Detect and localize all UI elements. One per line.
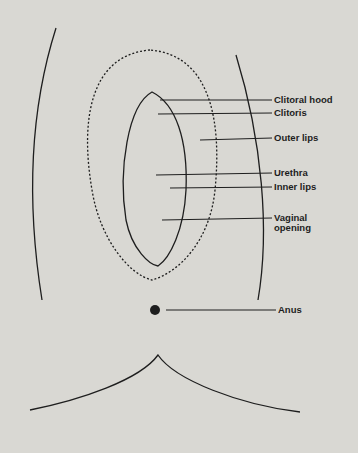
lower-outline: [30, 355, 300, 412]
left-thigh-outline: [33, 28, 56, 300]
right-thigh-outline: [236, 55, 263, 300]
label-inner-lips: Inner lips: [274, 182, 316, 192]
label-clitoris: Clitoris: [274, 108, 307, 118]
anus-marker: [150, 305, 160, 315]
label-anus: Anus: [278, 305, 302, 315]
label-clitoral-hood: Clitoral hood: [274, 95, 333, 105]
label-vaginal-opening-line2: opening: [274, 223, 311, 233]
label-outer-lips: Outer lips: [274, 133, 318, 143]
label-urethra: Urethra: [274, 168, 308, 178]
outer-shape: [88, 50, 217, 280]
inner-shape: [123, 92, 186, 266]
